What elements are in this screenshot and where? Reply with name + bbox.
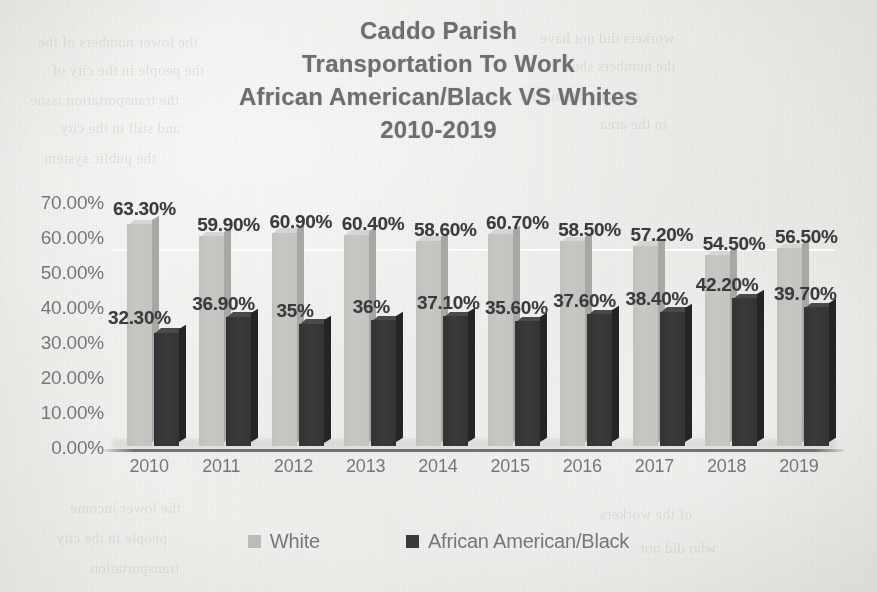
bar-front-face xyxy=(777,248,802,446)
bar-side-face xyxy=(612,306,619,442)
bar-side-face xyxy=(468,308,475,442)
y-axis-tick-50: 50.00% xyxy=(4,262,104,284)
legend-swatch-white xyxy=(248,535,261,548)
chart-title: Caddo Parish Transportation To Work Afri… xyxy=(0,14,877,146)
bar-front-face xyxy=(443,316,468,446)
bar-front-face xyxy=(587,314,612,446)
data-label-black-2016: 37.60% xyxy=(553,290,616,312)
bar-white-2013 xyxy=(344,235,369,446)
data-label-black-2011: 36.90% xyxy=(192,293,255,315)
bar-front-face xyxy=(660,312,685,446)
bar-black-2011 xyxy=(226,317,251,446)
data-label-black-2015: 35.60% xyxy=(485,297,548,319)
chart-legend: WhiteAfrican American/Black xyxy=(0,530,877,553)
bar-front-face xyxy=(344,235,369,446)
x-axis-tick-2016: 2016 xyxy=(546,456,618,477)
legend-label: White xyxy=(270,530,320,553)
bar-front-face xyxy=(371,320,396,446)
bar-front-face xyxy=(515,321,540,446)
bar-black-2012 xyxy=(299,324,324,447)
bar-front-face xyxy=(804,307,829,446)
x-axis-tick-2013: 2013 xyxy=(330,456,402,477)
scanned-chart-page: the lower numbers of thethe people in th… xyxy=(0,0,877,592)
data-label-black-2014: 37.10% xyxy=(417,292,480,314)
bar-black-2014 xyxy=(443,316,468,446)
bar-black-2017 xyxy=(660,312,685,446)
x-axis-tick-2010: 2010 xyxy=(113,456,185,477)
bar-white-2014 xyxy=(416,241,441,446)
bar-black-2019 xyxy=(804,307,829,446)
y-axis-tick-10: 10.00% xyxy=(4,402,104,424)
data-label-white-2013: 60.40% xyxy=(342,213,405,235)
bar-black-2016 xyxy=(587,314,612,446)
bar-front-face xyxy=(732,298,757,446)
x-axis-tick-2018: 2018 xyxy=(691,456,763,477)
legend-swatch-black xyxy=(406,535,419,548)
bar-white-2012 xyxy=(272,233,297,446)
data-label-white-2015: 60.70% xyxy=(486,212,549,234)
bar-front-face xyxy=(488,234,513,446)
bar-side-face xyxy=(251,308,258,442)
x-axis-tick-2014: 2014 xyxy=(402,456,474,477)
bar-black-2015 xyxy=(515,321,540,446)
legend-item-african-american-black[interactable]: African American/Black xyxy=(406,530,629,553)
x-axis-tick-2019: 2019 xyxy=(763,456,835,477)
x-axis-baseline xyxy=(104,449,844,452)
bar-side-face xyxy=(179,325,186,442)
x-axis-tick-2012: 2012 xyxy=(257,456,329,477)
bar-white-2017 xyxy=(633,246,658,446)
legend-label: African American/Black xyxy=(428,530,629,553)
y-axis-tick-20: 20.00% xyxy=(4,367,104,389)
plot-area: 63.30%32.30%59.90%36.90%60.90%35%60.40%3… xyxy=(113,196,835,450)
bar-side-face xyxy=(540,313,547,442)
data-label-white-2017: 57.20% xyxy=(631,224,694,246)
chart-title-line-3: African American/Black VS Whites xyxy=(0,80,877,113)
data-label-white-2019: 56.50% xyxy=(775,226,838,248)
y-axis-tick-40: 40.00% xyxy=(4,297,104,319)
bar-front-face xyxy=(199,236,224,446)
bar-white-2016 xyxy=(560,241,585,446)
data-label-white-2010: 63.30% xyxy=(113,198,176,220)
y-axis-tick-30: 30.00% xyxy=(4,332,104,354)
bar-front-face xyxy=(272,233,297,446)
bar-front-face xyxy=(299,324,324,447)
bar-white-2010 xyxy=(127,224,152,446)
y-axis-tick-70: 70.00% xyxy=(4,192,104,214)
bar-black-2013 xyxy=(371,320,396,446)
bar-white-2019 xyxy=(777,248,802,446)
data-label-black-2013: 36% xyxy=(353,296,390,318)
chart-title-line-2: Transportation To Work xyxy=(0,47,877,80)
data-label-white-2011: 59.90% xyxy=(197,214,260,236)
data-label-white-2014: 58.60% xyxy=(414,219,477,241)
data-label-black-2019: 39.70% xyxy=(774,283,837,305)
data-label-white-2018: 54.50% xyxy=(703,233,766,255)
chart-title-line-4: 2010-2019 xyxy=(0,113,877,146)
legend-item-white[interactable]: White xyxy=(248,530,320,553)
bar-white-2011 xyxy=(199,236,224,446)
bar-front-face xyxy=(416,241,441,446)
bar-front-face xyxy=(127,224,152,446)
bar-front-face xyxy=(560,241,585,446)
bar-front-face xyxy=(226,317,251,446)
bar-side-face xyxy=(685,303,692,442)
bar-black-2010 xyxy=(154,333,179,446)
data-label-black-2017: 38.40% xyxy=(626,288,689,310)
bar-side-face xyxy=(829,299,836,442)
data-label-black-2012: 35% xyxy=(277,300,314,322)
x-axis-tick-2015: 2015 xyxy=(474,456,546,477)
bar-front-face xyxy=(633,246,658,446)
data-label-white-2012: 60.90% xyxy=(270,211,333,233)
x-axis-tick-2017: 2017 xyxy=(618,456,690,477)
bar-black-2018 xyxy=(732,298,757,446)
y-axis-tick-0: 0.00% xyxy=(4,437,104,459)
bleed-through-line-12: of the workers xyxy=(600,506,692,523)
bar-side-face xyxy=(757,290,764,442)
bar-side-face xyxy=(396,312,403,442)
bar-front-face xyxy=(154,333,179,446)
y-axis-tick-60: 60.00% xyxy=(4,227,104,249)
data-label-black-2018: 42.20% xyxy=(696,274,759,296)
x-axis-tick-2011: 2011 xyxy=(185,456,257,477)
y-axis: 70.00%60.00%50.00%40.00%30.00%20.00%10.0… xyxy=(0,0,104,592)
data-label-white-2016: 58.50% xyxy=(558,219,621,241)
bar-side-face xyxy=(324,315,331,442)
